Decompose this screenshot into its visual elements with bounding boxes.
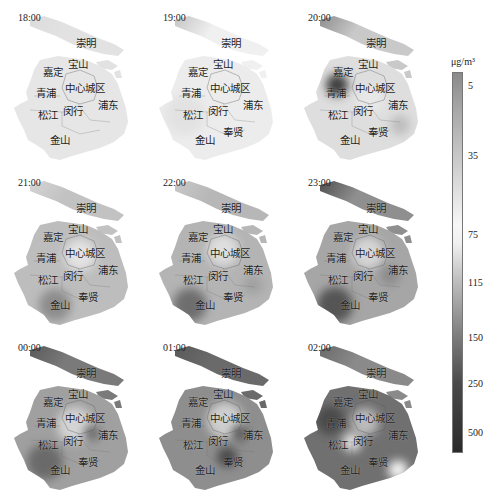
district-label-center: 中心城区: [355, 83, 395, 94]
islet-shape: [114, 70, 122, 78]
district-label-chongming: 崇明: [366, 203, 386, 214]
district-label-jinshan: 金山: [195, 300, 215, 311]
islet-shape: [404, 400, 412, 408]
district-label-jinshan: 金山: [195, 465, 215, 476]
islet-shape: [259, 235, 267, 243]
colorbar: [452, 72, 463, 453]
district-label-minhang: 闵行: [208, 106, 228, 117]
district-label-jinshan: 金山: [340, 465, 360, 476]
district-label-qingpu: 青浦: [181, 418, 201, 429]
district-label-pudong: 浦东: [388, 100, 408, 111]
panel-time-label: 02:00: [308, 342, 331, 353]
colorbar-tick-label: 500: [468, 427, 483, 438]
panel-time-label: 00:00: [18, 342, 41, 353]
colorbar-tick-label: 5: [468, 80, 473, 91]
colorbar-tick-label: 35: [468, 150, 478, 161]
colorbar-unit-label: μg/m³: [451, 56, 475, 67]
district-label-qingpu: 青浦: [326, 88, 346, 99]
district-label-jiading: 嘉定: [43, 397, 63, 408]
map-panel-0200: 02:00崇明宝山嘉定青浦中心城区浦东松江闵行奉贤金山: [290, 330, 435, 495]
district-label-pudong: 浦东: [243, 265, 263, 276]
pm25-hourly-map-figure: 18:00崇明宝山嘉定青浦中心城区浦东松江闵行金山19:00崇明宝山嘉定青浦中心…: [0, 0, 491, 496]
panel-time-label: 18:00: [18, 12, 41, 23]
concentration-blob: [388, 460, 408, 480]
district-label-pudong: 浦东: [388, 265, 408, 276]
concentration-blob: [390, 115, 410, 135]
district-label-minhang: 闵行: [353, 271, 373, 282]
panel-time-label: 22:00: [163, 177, 186, 188]
district-label-jiading: 嘉定: [333, 397, 353, 408]
district-label-baoshan: 宝山: [358, 389, 378, 400]
map-panel-2000: 20:00崇明宝山嘉定青浦中心城区浦东松江闵行奉贤金山: [290, 0, 435, 165]
colorbar-tick-label: 250: [468, 377, 483, 388]
district-label-center: 中心城区: [65, 413, 105, 424]
district-label-qingpu: 青浦: [326, 253, 346, 264]
district-label-pudong: 浦东: [98, 265, 118, 276]
panel-time-label: 19:00: [163, 12, 186, 23]
district-label-baoshan: 宝山: [68, 59, 88, 70]
district-label-center: 中心城区: [65, 248, 105, 259]
map-panel-2100: 21:00崇明宝山嘉定青浦中心城区浦东松江闵行奉贤金山: [0, 165, 145, 330]
district-label-chongming: 崇明: [76, 38, 96, 49]
district-label-songjiang: 松江: [38, 275, 58, 286]
district-label-qingpu: 青浦: [181, 253, 201, 264]
district-label-songjiang: 松江: [328, 110, 348, 121]
district-label-chongming: 崇明: [366, 38, 386, 49]
district-label-songjiang: 松江: [328, 440, 348, 451]
district-label-jiading: 嘉定: [43, 232, 63, 243]
district-label-jinshan: 金山: [50, 465, 70, 476]
district-label-fengxian: 奉贤: [78, 457, 98, 468]
map-panel-1800: 18:00崇明宝山嘉定青浦中心城区浦东松江闵行金山: [0, 0, 145, 165]
district-label-fengxian: 奉贤: [223, 292, 243, 303]
district-label-pudong: 浦东: [98, 100, 118, 111]
district-label-fengxian: 奉贤: [223, 457, 243, 468]
district-label-jinshan: 金山: [50, 300, 70, 311]
concentration-blob: [243, 275, 263, 295]
district-label-chongming: 崇明: [221, 38, 241, 49]
district-label-baoshan: 宝山: [213, 389, 233, 400]
district-label-center: 中心城区: [355, 413, 395, 424]
colorbar-tick-label: 150: [468, 332, 483, 343]
district-label-center: 中心城区: [65, 83, 105, 94]
district-label-center: 中心城区: [210, 248, 250, 259]
district-label-jinshan: 金山: [340, 300, 360, 311]
district-label-qingpu: 青浦: [181, 88, 201, 99]
district-label-pudong: 浦东: [388, 430, 408, 441]
district-label-minhang: 闵行: [63, 436, 83, 447]
islet-shape: [114, 235, 122, 243]
district-label-jinshan: 金山: [50, 135, 70, 146]
map-panel-2200: 22:00崇明宝山嘉定青浦中心城区浦东松江闵行奉贤金山: [145, 165, 290, 330]
district-label-jiading: 嘉定: [188, 232, 208, 243]
district-label-chongming: 崇明: [221, 368, 241, 379]
district-label-fengxian: 奉贤: [368, 127, 388, 138]
map-panel-2300: 23:00崇明宝山嘉定青浦中心城区浦东松江闵行奉贤金山: [290, 165, 435, 330]
district-label-minhang: 闵行: [208, 436, 228, 447]
district-label-songjiang: 松江: [183, 110, 203, 121]
district-label-qingpu: 青浦: [36, 253, 56, 264]
district-label-chongming: 崇明: [366, 368, 386, 379]
district-label-songjiang: 松江: [183, 275, 203, 286]
district-label-baoshan: 宝山: [213, 59, 233, 70]
district-label-songjiang: 松江: [38, 440, 58, 451]
district-label-songjiang: 松江: [183, 440, 203, 451]
district-label-jiading: 嘉定: [333, 232, 353, 243]
district-label-jinshan: 金山: [340, 135, 360, 146]
district-label-baoshan: 宝山: [358, 59, 378, 70]
district-label-baoshan: 宝山: [358, 224, 378, 235]
district-label-fengxian: 奉贤: [368, 457, 388, 468]
district-label-fengxian: 奉贤: [223, 127, 243, 138]
panel-time-label: 21:00: [18, 177, 41, 188]
panel-time-label: 23:00: [308, 177, 331, 188]
district-label-minhang: 闵行: [63, 271, 83, 282]
colorbar-tick-label: 75: [468, 228, 478, 239]
district-label-minhang: 闵行: [63, 106, 83, 117]
district-label-jinshan: 金山: [195, 135, 215, 146]
district-label-qingpu: 青浦: [326, 418, 346, 429]
district-label-pudong: 浦东: [243, 430, 263, 441]
district-label-chongming: 崇明: [76, 203, 96, 214]
panel-time-label: 20:00: [308, 12, 331, 23]
district-label-songjiang: 松江: [38, 110, 58, 121]
islet-shape: [114, 400, 122, 408]
colorbar-tick-label: 115: [468, 276, 483, 287]
district-label-fengxian: 奉贤: [78, 292, 98, 303]
